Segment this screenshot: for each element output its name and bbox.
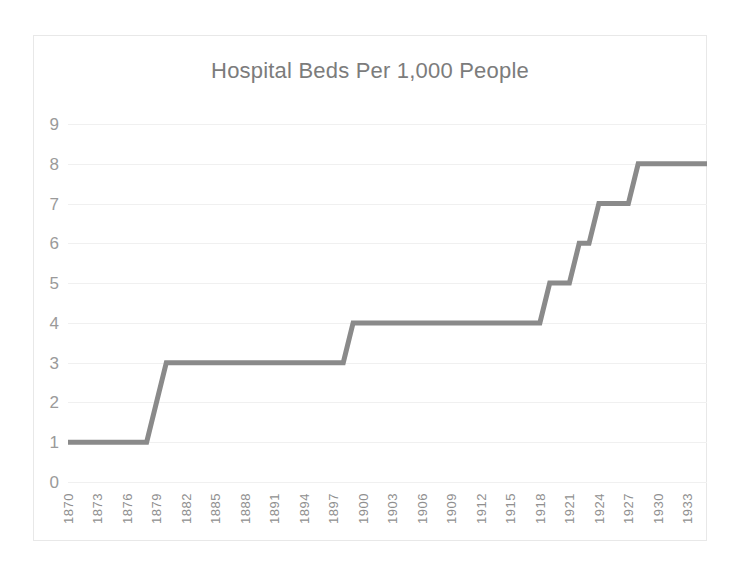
y-axis-tick-label: 8: [50, 155, 59, 172]
chart-plot-frame: Hospital Beds Per 1,000 People 987654321…: [33, 35, 707, 541]
x-axis-tick: 1921: [562, 482, 577, 524]
x-axis-tick: 1903: [385, 482, 400, 524]
x-axis-tick-label: 1930: [650, 493, 665, 524]
series-line-path: [68, 164, 707, 442]
x-axis-tick-label: 1915: [503, 493, 518, 524]
x-axis-tick: 1912: [473, 482, 488, 524]
x-axis-tick-label: 1885: [208, 493, 223, 524]
x-axis-tick: 1888: [237, 482, 252, 524]
x-axis-tick-label: 1894: [296, 493, 311, 524]
x-axis-tick: 1891: [267, 482, 282, 524]
x-axis-tick: 1873: [90, 482, 105, 524]
x-axis-tick: 1906: [414, 482, 429, 524]
x-axis-tick-label: 1873: [90, 493, 105, 524]
x-axis-tick: 1870: [61, 482, 76, 524]
y-axis-tick-label: 0: [50, 474, 59, 491]
x-axis-tick-label: 1918: [532, 493, 547, 524]
x-axis-tick-label: 1921: [562, 493, 577, 524]
x-axis-tick: 1879: [149, 482, 164, 524]
x-axis-tick: 1918: [532, 482, 547, 524]
y-axis-tick-label: 1: [50, 434, 59, 451]
x-axis-tick-label: 1897: [326, 493, 341, 524]
x-axis-tick: 1885: [208, 482, 223, 524]
x-axis-tick: 1933: [680, 482, 695, 524]
x-axis-tick-label: 1912: [473, 493, 488, 524]
y-axis-tick-label: 5: [50, 275, 59, 292]
x-axis-tick: 1900: [355, 482, 370, 524]
x-axis-tick: 1876: [119, 482, 134, 524]
x-axis-tick-label: 1924: [591, 493, 606, 524]
x-axis-tick-label: 1927: [621, 493, 636, 524]
y-axis-tick-label: 2: [50, 394, 59, 411]
y-axis-tick-label: 6: [50, 235, 59, 252]
x-axis-tick-label: 1933: [680, 493, 695, 524]
x-axis-tick: 1897: [326, 482, 341, 524]
x-axis-tick: 1909: [444, 482, 459, 524]
series-line-chart: [68, 124, 707, 482]
x-axis-tick: 1882: [178, 482, 193, 524]
plot-area: 9876543210 18701873187618791882188518881…: [68, 124, 707, 482]
x-axis-tick-label: 1879: [149, 493, 164, 524]
x-axis-tick: 1927: [621, 482, 636, 524]
x-axis-tick: 1930: [650, 482, 665, 524]
y-axis-tick-label: 9: [50, 116, 59, 133]
x-axis-tick: 1915: [503, 482, 518, 524]
x-axis-tick-label: 1909: [444, 493, 459, 524]
x-axis-tick-label: 1876: [119, 493, 134, 524]
x-axis-tick: 1894: [296, 482, 311, 524]
chart-title: Hospital Beds Per 1,000 People: [34, 58, 706, 84]
y-axis-tick-label: 3: [50, 354, 59, 371]
x-axis-tick-label: 1891: [267, 493, 282, 524]
x-axis-tick: 1924: [591, 482, 606, 524]
x-axis-tick-label: 1882: [178, 493, 193, 524]
x-axis-tick-label: 1888: [237, 493, 252, 524]
x-axis-tick-label: 1903: [385, 493, 400, 524]
x-axis-tick-label: 1870: [61, 493, 76, 524]
y-axis-tick-label: 4: [50, 314, 59, 331]
x-axis-tick-label: 1900: [355, 493, 370, 524]
y-axis-tick-label: 7: [50, 195, 59, 212]
x-axis-tick-label: 1906: [414, 493, 429, 524]
